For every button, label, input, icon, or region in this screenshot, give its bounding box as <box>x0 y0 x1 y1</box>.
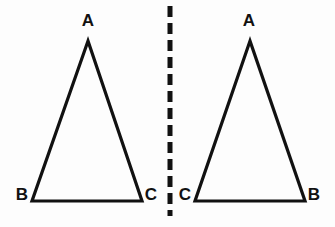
right-vertex-label-bottom-right: B <box>308 185 320 204</box>
left-vertex-label-bottom-left: B <box>16 185 28 204</box>
geometry-figure: A B C A C B <box>0 0 335 227</box>
right-vertex-label-bottom-left: C <box>179 185 191 204</box>
figure-canvas: A B C A C B <box>0 0 335 227</box>
left-vertex-label-bottom-right: C <box>145 185 157 204</box>
left-vertex-label-apex: A <box>82 11 94 30</box>
right-vertex-label-apex: A <box>243 11 255 30</box>
